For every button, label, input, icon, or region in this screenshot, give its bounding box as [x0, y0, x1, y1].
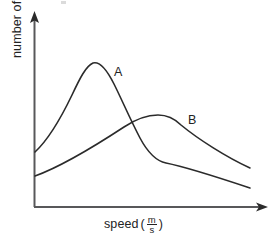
- x-axis-title-text: speed: [104, 217, 139, 231]
- plot-area: [0, 0, 279, 245]
- x-axis-title: speed ( m s ): [104, 214, 163, 234]
- x-axis-unit-paren-open: (: [141, 217, 145, 231]
- x-axis-unit-denominator: s: [148, 225, 155, 235]
- x-axis-unit-paren-close: ): [159, 217, 163, 231]
- curve-a-path: [35, 63, 250, 188]
- x-axis-unit-numerator: m: [147, 215, 157, 225]
- x-axis-unit-fraction: m s: [147, 215, 157, 235]
- curve-b-path: [35, 115, 250, 176]
- maxwell-boltzmann-distribution-figure: A B number of molecules speed ( m s ): [0, 0, 279, 245]
- curve-label-a: A: [114, 65, 122, 79]
- y-axis-title: number of molecules: [10, 0, 24, 64]
- curve-label-b: B: [188, 113, 196, 127]
